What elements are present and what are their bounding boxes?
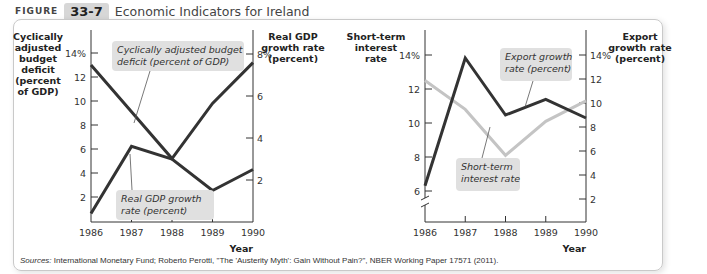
left-tick-label: 8 xyxy=(80,120,86,131)
x-tick-label: 1989 xyxy=(534,227,558,238)
sources-text: International Monetary Fund; Roberto Per… xyxy=(52,256,499,265)
x-axis-title: Year xyxy=(561,243,586,254)
x-axis-title: Year xyxy=(228,243,253,254)
sources-note: Sources: International Monetary Fund; Ro… xyxy=(20,256,498,265)
x-tick-label: 1990 xyxy=(574,227,598,238)
right-tick-label: 10 xyxy=(590,98,602,109)
right-tick-label: 2 xyxy=(590,194,596,205)
x-tick-label: 1986 xyxy=(413,227,437,238)
left-tick-label: 10 xyxy=(408,118,420,129)
left-axis-title: Short-term xyxy=(347,31,406,42)
sources-prefix: Sources: xyxy=(20,256,52,265)
x-tick-label: 1990 xyxy=(241,227,265,238)
right-axis-title: (percent) xyxy=(268,53,318,64)
callout-text: Export growth xyxy=(505,51,572,62)
callout-text: rate (percent) xyxy=(121,205,187,216)
left-axis-title: deficit xyxy=(21,64,55,75)
right-tick-label: 12 xyxy=(590,74,602,85)
right-axis-title: growth rate xyxy=(261,42,324,53)
x-tick-label: 1988 xyxy=(160,227,184,238)
left-tick-label: 12 xyxy=(408,84,420,95)
left-tick-label: 6 xyxy=(414,186,420,197)
callout-text: interest rate xyxy=(461,173,520,184)
left-axis-title: (percent xyxy=(15,75,61,86)
right-tick-label: 2 xyxy=(257,175,263,186)
left-tick-label: 14% xyxy=(399,50,420,61)
x-tick-label: 1987 xyxy=(119,227,143,238)
left-axis-title: adjusted xyxy=(15,42,62,53)
axis-break-icon xyxy=(421,196,429,207)
callout-text: deficit (percent of GDP) xyxy=(117,56,229,67)
right-tick-label: 8 xyxy=(590,122,596,133)
callout-leader xyxy=(134,71,150,123)
callout-leader xyxy=(130,154,132,190)
left-tick-label: 14% xyxy=(65,48,86,59)
right-tick-label: 4 xyxy=(590,170,596,181)
left-axis-title: of GDP) xyxy=(18,86,59,97)
right-tick-label: 4 xyxy=(257,133,263,144)
series-line xyxy=(425,81,586,156)
right-axis-title: (percent) xyxy=(615,53,665,64)
x-tick-label: 1989 xyxy=(200,227,224,238)
left-axis-title: rate xyxy=(365,53,387,64)
callout-text: Cyclically adjusted budget xyxy=(117,44,244,55)
left-axis-title: interest xyxy=(355,42,398,53)
right-axis-title: Real GDP xyxy=(268,31,317,42)
right-tick-label: 6 xyxy=(590,146,596,157)
callout-text: Short-term xyxy=(461,161,513,172)
callout-text: rate (percent) xyxy=(505,63,571,74)
left-tick-label: 2 xyxy=(80,192,86,203)
left-axis-title: Cyclically xyxy=(13,31,64,42)
callout-text: Real GDP growth xyxy=(121,193,202,204)
right-axis-title: Export xyxy=(622,31,658,42)
left-tick-label: 4 xyxy=(80,168,86,179)
x-tick-label: 1988 xyxy=(493,227,517,238)
callout-leader xyxy=(525,81,533,107)
left-axis-title: budget xyxy=(19,53,58,64)
left-tick-label: 6 xyxy=(80,144,86,155)
series-line xyxy=(91,63,253,159)
x-tick-label: 1986 xyxy=(79,227,103,238)
left-tick-label: 10 xyxy=(74,96,86,107)
charts-canvas: 19861987198819891990Year2468101214%2468%… xyxy=(0,0,707,274)
left-tick-label: 12 xyxy=(74,72,86,83)
left-tick-label: 8 xyxy=(414,152,420,163)
right-axis-title: growth rate xyxy=(608,42,671,53)
x-tick-label: 1987 xyxy=(453,227,477,238)
right-tick-label: 6 xyxy=(257,91,263,102)
